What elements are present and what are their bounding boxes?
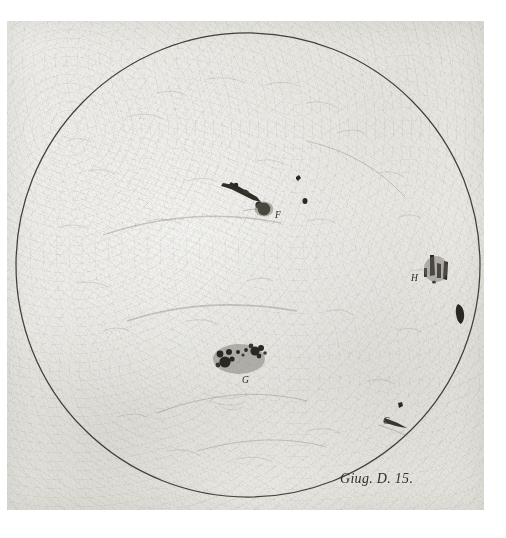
disk-shading-strokes bbox=[103, 141, 405, 451]
sunspot-label-g: G bbox=[242, 375, 249, 385]
paper-sheet: F bbox=[7, 21, 484, 510]
sunspot-group-f: F bbox=[221, 175, 308, 220]
sunspot-group-g: G bbox=[203, 344, 267, 410]
disk-granulation bbox=[59, 78, 431, 462]
sunspot-label-f: F bbox=[274, 210, 281, 220]
sunspot-group-c: C bbox=[379, 402, 407, 436]
sunspot-group-h: H bbox=[410, 255, 448, 284]
sunspot-unlabeled-limb bbox=[456, 304, 464, 324]
sunspot-label-c: C bbox=[383, 416, 390, 426]
sunspot-label-h: H bbox=[410, 273, 419, 283]
drawing-layer: F bbox=[7, 21, 484, 510]
plate-caption: Giug. D. 15. bbox=[340, 471, 413, 486]
solar-disk-limb bbox=[16, 33, 480, 497]
sunspot-plate: F bbox=[0, 0, 506, 538]
